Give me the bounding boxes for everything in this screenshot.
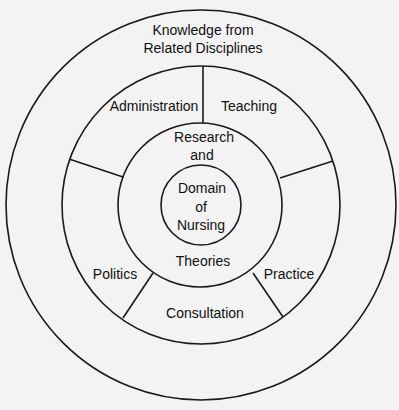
- segment-label-practice: Practice: [264, 266, 315, 282]
- inner-ring-label-research: Research: [174, 129, 234, 145]
- outer-ring-label-line-2: Related Disciplines: [143, 40, 262, 56]
- segment-label-administration: Administration: [110, 98, 199, 114]
- nursing-domain-diagram: Knowledge from Related Disciplines Admin…: [0, 0, 399, 410]
- core-label-of: of: [195, 199, 207, 215]
- core-label-domain: Domain: [178, 180, 226, 196]
- inner-ring-label-theories: Theories: [176, 253, 230, 269]
- segment-label-consultation: Consultation: [166, 305, 244, 321]
- inner-ring-label-and: and: [190, 147, 213, 163]
- divider-administration-politics: [69, 159, 123, 177]
- segment-label-politics: Politics: [93, 266, 137, 282]
- outer-ring-label-line-1: Knowledge from: [152, 22, 253, 38]
- segment-label-teaching: Teaching: [221, 98, 277, 114]
- divider-teaching-practice: [280, 161, 333, 178]
- core-label-nursing: Nursing: [177, 217, 225, 233]
